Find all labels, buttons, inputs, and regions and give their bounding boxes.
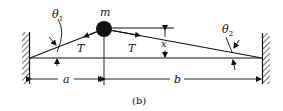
distance-a-label: a xyxy=(63,73,70,86)
tension-arrow-right xyxy=(112,31,140,36)
theta1-angle-marker xyxy=(49,19,62,66)
string-mass-diagram: m θ1 θ2 T T x a b (b) xyxy=(0,0,283,111)
tension-left-label: T xyxy=(77,42,86,55)
mass-label: m xyxy=(100,6,110,19)
left-wall xyxy=(22,32,30,84)
right-wall xyxy=(263,33,271,84)
mass-ball xyxy=(96,21,112,37)
theta2-label: θ2 xyxy=(222,23,233,38)
distance-b-label: b xyxy=(174,73,181,86)
displacement-label: x xyxy=(161,38,167,49)
tension-arrow-left xyxy=(84,32,96,37)
tension-right-label: T xyxy=(128,42,137,55)
theta1-label: θ1 xyxy=(52,8,63,23)
figure-caption: (b) xyxy=(132,95,146,106)
